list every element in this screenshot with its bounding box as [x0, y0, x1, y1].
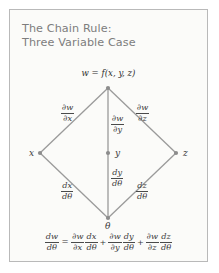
- numerator: dx: [61, 181, 73, 191]
- term-3-total: dz dθ: [160, 232, 172, 252]
- node-dot-w: [106, 86, 110, 90]
- node-dot-y: [106, 151, 110, 155]
- plus-sign-1: +: [100, 237, 107, 247]
- numerator: dx: [85, 232, 97, 242]
- denominator: dθ: [61, 191, 73, 202]
- edge-label-dx-dtheta: dx dθ: [61, 181, 73, 201]
- chain-rule-card: The Chain Rule: Three Variable Case w = …: [9, 9, 208, 262]
- node-label-theta: θ: [105, 221, 110, 231]
- numerator: ∂w: [111, 114, 124, 124]
- denominator: ∂z: [146, 242, 159, 253]
- numerator: ∂w: [108, 232, 121, 242]
- denominator: dθ: [160, 242, 172, 253]
- denominator: dθ: [123, 242, 135, 253]
- edge-label-dz-dtheta: dz dθ: [136, 181, 148, 201]
- numerator: ∂w: [61, 103, 74, 113]
- denominator: dθ: [45, 242, 59, 253]
- denominator: dθ: [111, 178, 123, 189]
- term-3-partial: ∂w ∂z: [146, 232, 159, 252]
- denominator: ∂x: [71, 242, 84, 253]
- numerator: ∂w: [146, 232, 159, 242]
- term-2-partial: ∂w ∂y: [108, 232, 121, 252]
- numerator: ∂w: [71, 232, 84, 242]
- term-1-total: dx dθ: [85, 232, 97, 252]
- term-1-partial: ∂w ∂x: [71, 232, 84, 252]
- edge-label-dw-dy: ∂w ∂y: [111, 114, 124, 134]
- denominator: ∂z: [136, 113, 149, 124]
- numerator: dy: [111, 168, 123, 178]
- denominator: ∂x: [61, 113, 74, 124]
- chain-rule-equation: dw dθ = ∂w ∂x dx dθ + ∂w ∂y dy dθ + ∂w ∂…: [10, 232, 207, 252]
- node-dot-x: [38, 151, 42, 155]
- numerator: dz: [136, 181, 148, 191]
- numerator: dy: [123, 232, 135, 242]
- node-label-y: y: [115, 148, 120, 158]
- denominator: dθ: [136, 191, 148, 202]
- numerator: dz: [160, 232, 172, 242]
- equals-sign: =: [62, 237, 69, 247]
- denominator: ∂y: [111, 124, 124, 135]
- denominator: ∂y: [108, 242, 121, 253]
- plus-sign-2: +: [137, 237, 144, 247]
- edge-label-dw-dz: ∂w ∂z: [136, 103, 149, 123]
- edge-label-dy-dtheta: dy dθ: [111, 168, 123, 188]
- numerator: ∂w: [136, 103, 149, 113]
- node-dot-z: [174, 151, 178, 155]
- term-2-total: dy dθ: [123, 232, 135, 252]
- node-label-x: x: [29, 148, 34, 158]
- node-label-z: z: [183, 148, 188, 158]
- edge-x-to-theta: [40, 153, 108, 218]
- edge-label-dw-dx: ∂w ∂x: [61, 103, 74, 123]
- equation-lhs: dw dθ: [45, 232, 59, 252]
- numerator: dw: [45, 232, 59, 242]
- node-dot-theta: [106, 216, 110, 220]
- denominator: dθ: [85, 242, 97, 253]
